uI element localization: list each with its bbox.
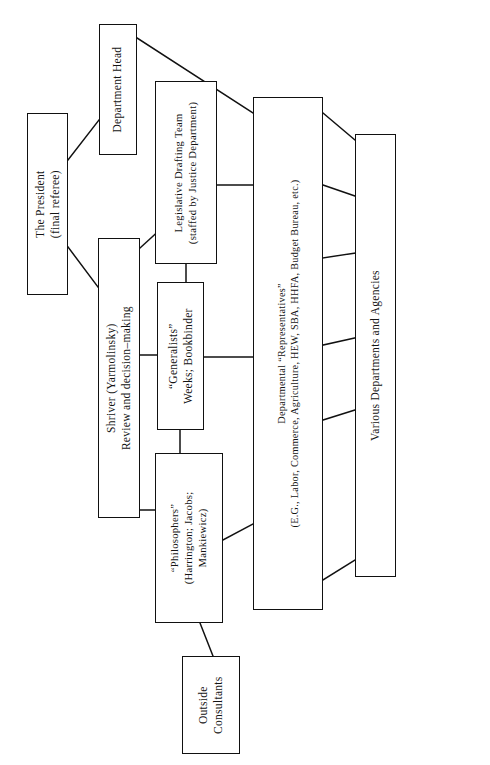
node-label-philosophers: “Philosophers” (Harrington; Jacobs; Mank… [168,492,210,585]
node-departmental-representatives[interactable]: Departmental “Representatives” (E.G., La… [253,97,323,610]
node-generalists[interactable]: “Generalists” Weeks; Bookbinder [157,282,204,430]
edge-president-department-head [68,120,99,160]
node-label-department-head: Department Head [110,47,125,133]
edge-president-shriver [68,247,98,287]
node-label-the-president: The President (final referee) [32,170,62,238]
node-label-outside-consultants: Outside Consultants [196,676,226,734]
node-shriver[interactable]: Shriver (Yarmolinsky) Review and decisio… [98,238,140,518]
edge-departmental-agencies-2 [323,185,355,196]
edge-departmental-agencies-6 [323,560,355,580]
edge-departmental-agencies-3 [323,253,355,258]
organization-chart: The President (final referee) Department… [0,0,490,765]
connector-lines [0,0,490,765]
edge-departmental-agencies-5 [323,410,355,420]
node-legislative-drafting-team[interactable]: Legislative Drafting Team (staffed by Ju… [155,81,217,264]
edge-departmental-agencies-1 [323,113,355,140]
node-department-head[interactable]: Department Head [99,24,137,155]
node-label-generalists: “Generalists” Weeks; Bookbinder [165,308,195,404]
node-outside-consultants[interactable]: Outside Consultants [182,656,240,754]
node-philosophers[interactable]: “Philosophers” (Harrington; Jacobs; Mank… [155,453,223,623]
node-label-various-departments-agencies: Various Departments and Agencies [368,270,383,441]
node-label-legislative-drafting-team: Legislative Drafting Team (staffed by Ju… [172,101,200,243]
edge-philosophers-departmental [223,524,253,540]
node-the-president[interactable]: The President (final referee) [27,113,68,295]
node-label-departmental-representatives: Departmental “Representatives” (E.G., La… [275,180,302,528]
edge-philosophers-outside-consultants [200,623,213,656]
edge-departmental-agencies-4 [323,338,355,345]
node-label-shriver: Shriver (Yarmolinsky) Review and decisio… [104,306,134,450]
node-various-departments-agencies[interactable]: Various Departments and Agencies [355,134,396,577]
